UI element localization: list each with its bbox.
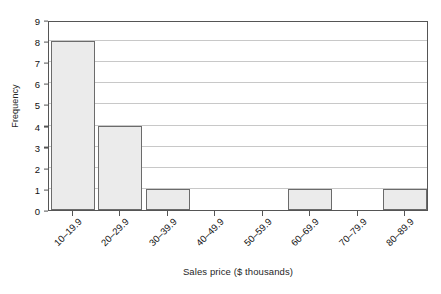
histogram-chart: Frequency 0123456789 10–19.920–29.930–39… xyxy=(0,0,441,294)
x-axis-tick-label-wrap: 30–39.9 xyxy=(146,216,178,248)
x-axis-tick-label-wrap: 80–89.9 xyxy=(384,216,416,248)
x-axis-tick-label: 50–59.9 xyxy=(241,216,273,248)
histogram-bar xyxy=(51,41,95,210)
y-axis-tick-label: 0 xyxy=(35,206,40,217)
x-axis-tick-label: 30–39.9 xyxy=(146,216,178,248)
x-axis-tick-label: 40–49.9 xyxy=(194,216,226,248)
x-axis-tick-label-wrap: 10–19.9 xyxy=(51,216,83,248)
x-axis-tick-label-wrap: 20–29.9 xyxy=(99,216,131,248)
x-axis-tick-label: 20–29.9 xyxy=(99,216,131,248)
x-axis-tick-label-wrap: 60–69.9 xyxy=(289,216,321,248)
x-axis-tick-label: 80–89.9 xyxy=(384,216,416,248)
histogram-bar xyxy=(146,189,190,210)
histogram-bar xyxy=(98,126,142,210)
x-axis-tick-labels: 10–19.920–29.930–39.940–49.950–59.960–69… xyxy=(48,216,428,264)
histogram-bar xyxy=(288,189,332,210)
x-axis-tick-label-wrap: 50–59.9 xyxy=(241,216,273,248)
y-axis-tick-label: 5 xyxy=(35,100,40,111)
x-axis-tick-label: 60–69.9 xyxy=(289,216,321,248)
y-axis-tick-label: 1 xyxy=(35,184,40,195)
plot-area xyxy=(48,21,428,211)
y-axis-tick-label: 9 xyxy=(35,16,40,27)
y-axis-tick-labels: 0123456789 xyxy=(0,21,48,211)
histogram-bar xyxy=(383,189,427,210)
x-axis-tick-label-wrap: 70–79.9 xyxy=(336,216,368,248)
bars-layer xyxy=(49,22,427,210)
y-axis-tick-label: 2 xyxy=(35,163,40,174)
y-axis-tick-label: 6 xyxy=(35,79,40,90)
y-axis-tick-label: 7 xyxy=(35,58,40,69)
y-axis-tick-label: 8 xyxy=(35,37,40,48)
x-axis-title: Sales price ($ thousands) xyxy=(48,266,428,277)
x-axis-tick-label: 70–79.9 xyxy=(336,216,368,248)
x-axis-tick-label-wrap: 40–49.9 xyxy=(194,216,226,248)
x-axis-tick-label: 10–19.9 xyxy=(51,216,83,248)
y-axis-tick-label: 4 xyxy=(35,121,40,132)
y-axis-tick-label: 3 xyxy=(35,142,40,153)
